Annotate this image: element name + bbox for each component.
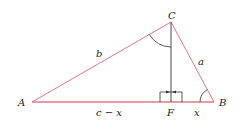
arrow-right-icon [172,91,176,94]
side-b-AC [32,22,171,102]
angle-arc-B [200,90,207,102]
side-label-b: b [96,48,102,59]
side-label-c-minus-x: c − x [96,107,122,118]
vertex-label-F: F [166,107,175,118]
triangle-diagram: A B C F b a c − x x [0,0,239,126]
vertex-label-A: A [17,97,25,108]
side-label-x: x [194,107,200,118]
vertex-label-C: C [168,10,176,21]
side-label-a: a [198,56,204,67]
right-angle-right [171,92,182,102]
right-angle-left [160,92,171,102]
angle-arc-C [149,35,171,48]
arrow-left-icon [166,91,170,94]
vertex-label-B: B [218,97,226,108]
